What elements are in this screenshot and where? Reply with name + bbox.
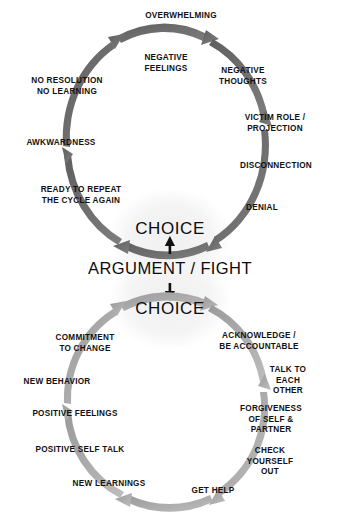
bottom-choice-label: CHOICE (135, 299, 205, 319)
negative-cycle-label-4: DISCONNECTION (240, 161, 312, 172)
positive-cycle-label-2: FORGIVENESS OF SELF & PARTNER (237, 404, 306, 436)
positive-cycle-label-9: COMMITMENT TO CHANGE (56, 333, 115, 354)
negative-cycle-label-8: NO RESOLUTION NO LEARNING (31, 76, 102, 97)
negative-cycle-label-5: DENIAL (246, 203, 278, 214)
negative-cycle-label-0: OVERWHELMING (145, 11, 217, 22)
positive-cycle-label-3: CHECK YOURSELF OUT (235, 446, 305, 478)
positive-cycle-label-1: TALK TO EACH OTHER (262, 365, 314, 397)
positive-cycle-label-7: POSITIVE FEELINGS (32, 409, 117, 420)
negative-cycle-label-6: READY TO REPEAT THE CYCLE AGAIN (41, 185, 122, 206)
argument-fight-label: ARGUMENT / FIGHT (88, 259, 252, 278)
positive-cycle-label-4: GET HELP (192, 486, 235, 497)
positive-cycle-label-6: POSITIVE SELF TALK (36, 445, 125, 456)
negative-cycle-label-2: NEGATIVE THOUGHTS (219, 66, 267, 87)
negative-cycle-label-3: VICTIM ROLE / PROJECTION (245, 113, 306, 134)
positive-cycle-label-8: NEW BEHAVIOR (24, 377, 91, 388)
negative-cycle-label-1: NEGATIVE FEELINGS (144, 53, 187, 74)
top-choice-label: CHOICE (135, 219, 205, 239)
negative-cycle-label-7: AWKWARDNESS (26, 138, 95, 149)
positive-cycle-label-5: NEW LEARNINGS (73, 479, 146, 490)
diagram-canvas: OVERWHELMINGNEGATIVE FEELINGSNEGATIVE TH… (0, 0, 340, 525)
positive-cycle-label-0: ACKNOWLEDGE / BE ACCOUNTABLE (219, 331, 298, 352)
